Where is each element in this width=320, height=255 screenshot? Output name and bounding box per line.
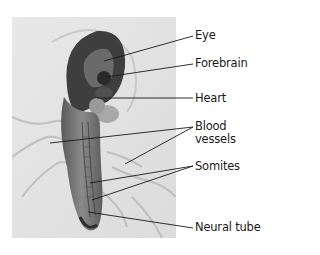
label-somites: Somites [195,160,240,173]
label-neural-tube: Neural tube [195,221,261,234]
label-eye: Eye [195,29,216,42]
neural-tube-leader-line [88,212,193,228]
somites-leader-line-2 [92,166,193,200]
somites-leader-line-1 [90,166,193,183]
label-blood-vessels-line2: vessels [195,133,236,146]
eye-leader-line [104,36,193,61]
forebrain-leader-line [106,64,193,77]
blood-vessels-leader-line-2 [125,127,193,164]
label-heart: Heart [195,92,226,105]
label-forebrain: Forebrain [195,57,248,70]
blood-vessels-leader-line-1 [50,127,193,143]
